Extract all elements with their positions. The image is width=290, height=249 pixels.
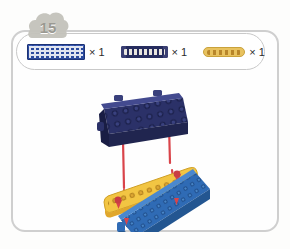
plate-hole-grid-detail	[29, 46, 83, 58]
step-number-badge: 15	[26, 11, 70, 39]
beam-holes-detail	[124, 49, 165, 55]
part-item-2[interactable]: × 1	[203, 34, 265, 69]
yellow-beam-holes-detail	[207, 50, 241, 55]
step-number-label: 15	[26, 11, 70, 39]
instruction-step-card: 15 × 1 × 1 × 1	[0, 0, 290, 249]
part-item-0[interactable]: × 1	[27, 34, 105, 69]
part-quantity-0: × 1	[89, 46, 105, 58]
part-quantity-2: × 1	[249, 46, 265, 58]
yellow-beam-icon	[203, 47, 245, 57]
dark-blue-beam-icon	[121, 46, 168, 58]
part-item-1[interactable]: × 1	[121, 34, 188, 69]
part-quantity-1: × 1	[172, 46, 188, 58]
blue-grid-plate-icon	[27, 44, 85, 60]
dark-blue-beam-piece	[97, 90, 188, 147]
